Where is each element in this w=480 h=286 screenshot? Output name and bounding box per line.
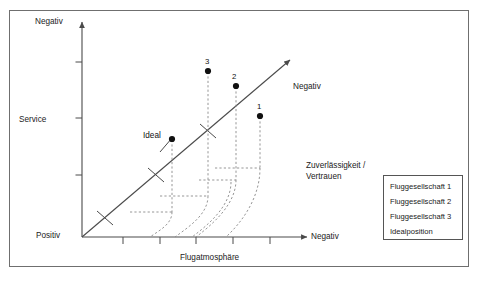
data-point-label-3: 3 [205, 57, 209, 66]
diagonal-axis-title: Zuverlässigkeit / Vertrauen [306, 160, 365, 182]
y-axis-top-label: Negativ [35, 17, 63, 28]
legend-item-fluggesellschaft-3: Fluggesellschaft 3 [390, 212, 451, 221]
x-axis-title: Flugatmosphäre [180, 253, 239, 264]
y-axis-title: Service [19, 115, 46, 126]
diagram-root: Negativ Service Positiv Flugatmosphäre N… [0, 0, 480, 286]
x-axis-end-label: Negativ [311, 232, 339, 243]
projection-lines [130, 72, 260, 237]
y-axis [76, 22, 83, 237]
data-point-label-2: 2 [232, 72, 236, 81]
diagonal-axis [82, 60, 290, 237]
diagram-canvas [0, 0, 480, 286]
data-point-label-1: 1 [257, 102, 261, 111]
y-axis-bottom-label: Positiv [36, 231, 60, 242]
data-point-3 [205, 68, 211, 74]
data-point-label-ideal: Ideal [143, 131, 161, 140]
legend-item-fluggesellschaft-2: Fluggesellschaft 2 [390, 197, 451, 206]
data-point-ideal [169, 136, 175, 142]
diagonal-axis-end-label: Negativ [293, 82, 321, 93]
data-point-2 [233, 83, 239, 89]
data-point-1 [257, 113, 263, 119]
legend-item-idealposition: Idealposition [390, 227, 433, 236]
legend-item-fluggesellschaft-1: Fluggesellschaft 1 [390, 182, 451, 191]
x-axis [82, 237, 307, 244]
data-points [169, 68, 263, 142]
legend-box: Fluggesellschaft 1 Fluggesellschaft 2 Fl… [383, 175, 463, 240]
